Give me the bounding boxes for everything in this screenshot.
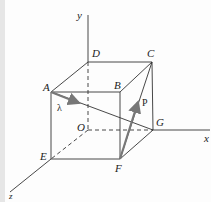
vertex-label-g: G bbox=[156, 117, 164, 128]
vertex-label-b: B bbox=[114, 80, 121, 91]
p-vector-arrow bbox=[120, 102, 138, 159]
edge-A-D bbox=[51, 62, 88, 92]
vertex-label-d: D bbox=[92, 48, 100, 59]
vertex-label-o: O bbox=[77, 122, 85, 133]
vertex-label-f: F bbox=[115, 163, 122, 174]
edge-O-E bbox=[51, 130, 88, 159]
lambda-vector-arrow bbox=[51, 92, 79, 103]
vertex-label-c: C bbox=[147, 48, 154, 59]
cube-drawing bbox=[0, 0, 211, 202]
z-axis-label: z bbox=[9, 192, 13, 201]
lambda-label: λ bbox=[57, 103, 62, 113]
axes bbox=[10, 15, 210, 192]
hidden-edges bbox=[51, 62, 153, 159]
cube-diagram: y x z A B C D E F G O λ P bbox=[0, 0, 211, 202]
vertex-label-e: E bbox=[40, 151, 47, 162]
p-vector-label: P bbox=[142, 98, 148, 108]
visible-edges bbox=[51, 62, 153, 159]
edge-C-G bbox=[152, 62, 153, 130]
y-axis-label: y bbox=[77, 10, 82, 21]
vertex-label-a: A bbox=[43, 82, 50, 93]
z-axis bbox=[10, 159, 51, 192]
x-axis-label: x bbox=[204, 133, 209, 144]
